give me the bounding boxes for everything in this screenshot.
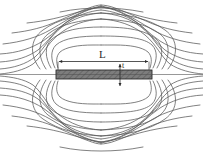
field-line-diagram: L t: [0, 0, 203, 153]
thin-plate: [56, 70, 152, 79]
field-lines-canvas: [0, 0, 203, 153]
thickness-label: t: [122, 62, 124, 70]
length-label: L: [99, 49, 106, 60]
